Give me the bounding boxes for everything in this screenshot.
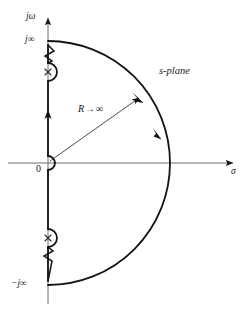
contour-indent-upper-pole	[48, 63, 57, 81]
direction-arrow-arc-lower	[153, 127, 162, 139]
imaginary-axis-label: jω	[26, 12, 35, 22]
upper-infinity-label: j∞	[25, 35, 34, 45]
contour-indent-lower-pole	[48, 229, 57, 247]
infinity-symbol: ∞	[96, 103, 103, 114]
figure-canvas	[0, 0, 249, 311]
radius-annotation-label: R→∞	[78, 104, 103, 114]
s-plane-label: s-plane	[159, 66, 190, 77]
break-symbol-upper	[45, 45, 54, 63]
origin-label: 0	[36, 164, 41, 174]
right-arrow-icon: →	[84, 103, 96, 114]
direction-arrow-group	[44, 93, 161, 140]
real-axis-label: σ	[231, 167, 236, 177]
nyquist-contour-figure: jω j∞ −j∞ 0 σ s-plane R→∞	[0, 0, 249, 311]
lower-infinity-label: −j∞	[11, 279, 27, 289]
